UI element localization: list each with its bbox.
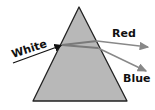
label-red: Red <box>112 27 136 40</box>
prism-diagram: White Red Blue <box>0 0 155 110</box>
label-blue: Blue <box>123 72 150 85</box>
prism <box>33 7 127 101</box>
red-ray <box>97 41 148 47</box>
